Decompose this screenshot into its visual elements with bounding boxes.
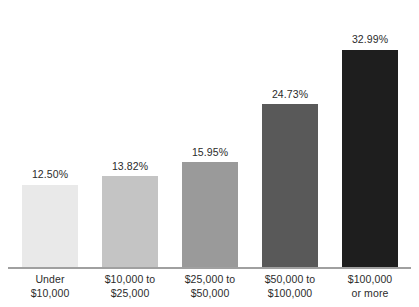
x-axis-line bbox=[8, 267, 411, 269]
bar-value-label: 24.73% bbox=[272, 89, 308, 100]
category-label-5: $100,000 or more bbox=[334, 272, 406, 300]
category-label-line1: $50,000 to bbox=[254, 272, 326, 286]
plot-area: 12.50% 13.82% 15.95% 24.73% 32.99% bbox=[0, 0, 419, 267]
bar-rect[interactable] bbox=[182, 162, 238, 267]
category-label-line1: $25,000 to bbox=[174, 272, 246, 286]
bar-value-label: 15.95% bbox=[192, 147, 228, 158]
bar-chart: 12.50% 13.82% 15.95% 24.73% 32.99% Under… bbox=[0, 0, 419, 307]
category-label-line2: or more bbox=[334, 286, 406, 300]
bar-rect[interactable] bbox=[342, 50, 398, 267]
category-label-line1: Under bbox=[14, 272, 86, 286]
category-label-4: $50,000 to $100,000 bbox=[254, 272, 326, 300]
category-label-1: Under $10,000 bbox=[14, 272, 86, 300]
bar-value-label: 12.50% bbox=[32, 169, 68, 180]
category-label-2: $10,000 to $25,000 bbox=[94, 272, 166, 300]
category-label-line1: $10,000 to bbox=[94, 272, 166, 286]
bar-group-4[interactable]: 24.73% bbox=[262, 89, 318, 267]
bar-group-3[interactable]: 15.95% bbox=[182, 147, 238, 268]
bar-rect[interactable] bbox=[102, 176, 158, 267]
bar-group-2[interactable]: 13.82% bbox=[102, 161, 158, 268]
category-label-line1: $100,000 bbox=[334, 272, 406, 286]
bar-rect[interactable] bbox=[22, 185, 78, 267]
bar-rect[interactable] bbox=[262, 104, 318, 267]
category-label-line2: $25,000 bbox=[94, 286, 166, 300]
bar-value-label: 13.82% bbox=[112, 161, 148, 172]
bar-value-label: 32.99% bbox=[352, 34, 388, 45]
category-label-line2: $50,000 bbox=[174, 286, 246, 300]
bar-group-5[interactable]: 32.99% bbox=[342, 34, 398, 267]
category-label-line2: $100,000 bbox=[254, 286, 326, 300]
category-label-line2: $10,000 bbox=[14, 286, 86, 300]
category-axis: Under $10,000 $10,000 to $25,000 $25,000… bbox=[0, 270, 419, 307]
bar-group-1[interactable]: 12.50% bbox=[22, 169, 78, 267]
category-label-3: $25,000 to $50,000 bbox=[174, 272, 246, 300]
